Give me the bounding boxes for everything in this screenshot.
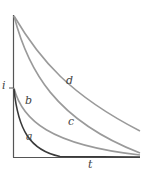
y-axis-label: i (2, 80, 6, 91)
curve-c (14, 16, 140, 153)
curve-d (14, 16, 140, 131)
curve-a (14, 89, 140, 157)
curve-label-a: a (26, 131, 33, 142)
curve-label-c: c (68, 116, 74, 127)
curve-label-d: d (66, 75, 73, 86)
x-axis-label: t (88, 159, 92, 170)
decay-curves-plot (0, 0, 151, 177)
curve-label-b: b (25, 95, 32, 106)
